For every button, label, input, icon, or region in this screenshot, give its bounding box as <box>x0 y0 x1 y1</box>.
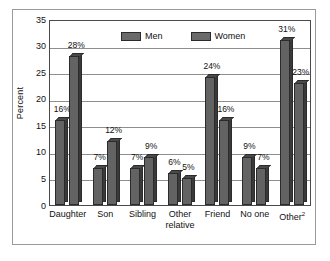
legend-label: Women <box>215 31 246 41</box>
bar-women-no-one: 7% <box>256 168 269 205</box>
bar-front-face <box>69 56 79 205</box>
bar-front-face <box>182 178 192 205</box>
y-axis-tick-label: 10 <box>16 148 46 157</box>
bar-front-face <box>280 40 290 205</box>
bar-women-son: 12% <box>107 141 120 205</box>
bar-men-son: 7% <box>93 168 106 205</box>
bar-women-other-relative: 5% <box>182 178 195 205</box>
bar-men-other: 31% <box>280 40 293 205</box>
y-axis-tick-label: 30 <box>16 42 46 51</box>
y-axis-tick-label: 5 <box>16 175 46 184</box>
bar-side-face <box>103 165 106 202</box>
gridline <box>50 127 310 128</box>
bar-side-face <box>178 170 181 202</box>
bar-women-sibling: 9% <box>144 157 157 205</box>
bar-side-face <box>192 175 195 202</box>
legend-swatch-icon <box>121 32 141 41</box>
bar-men-no-one: 9% <box>242 157 255 205</box>
bar-side-face <box>79 53 82 202</box>
bar-men-other-relative: 6% <box>168 173 181 205</box>
bar-front-face <box>219 120 229 205</box>
legend-item-men[interactable]: Men <box>121 31 163 41</box>
bar-value-label: 9% <box>236 141 262 151</box>
bar-value-label: 7% <box>250 152 276 162</box>
bar-top-face <box>94 165 108 168</box>
bar-men-sibling: 7% <box>130 168 143 205</box>
bar-front-face <box>256 168 266 205</box>
bar-value-label: 12% <box>101 125 127 135</box>
bar-women-daughter: 28% <box>69 56 82 205</box>
x-axis-tick-labels: DaughterSonSiblingOtherrelativeFriendNo … <box>49 209 311 243</box>
y-axis-tick-label: 20 <box>16 95 46 104</box>
bar-women-friend: 16% <box>219 120 232 205</box>
bar-value-label: 24% <box>199 61 225 71</box>
bar-front-face <box>242 157 252 205</box>
figure-frame: Percent 35302520151050 16%28%7%12%7%9%6%… <box>12 9 316 245</box>
y-axis-tick-label: 35 <box>16 16 46 25</box>
bar-value-label: 23% <box>288 67 314 77</box>
bar-women-other: 23% <box>294 83 307 205</box>
y-axis-tick-label: 15 <box>16 122 46 131</box>
bar-men-friend: 24% <box>205 77 218 205</box>
plot-area: 16%28%7%12%7%9%6%5%24%16%9%7%31%23% <box>49 20 311 206</box>
gridline <box>50 101 310 102</box>
bar-value-label: 28% <box>63 40 89 50</box>
bar-side-face <box>229 117 232 202</box>
legend-swatch-icon <box>191 32 211 41</box>
bar-side-face <box>154 154 157 202</box>
x-axis-tick-label-superscript: 2 <box>302 211 305 217</box>
legend-label: Men <box>145 31 163 41</box>
bar-side-face <box>215 74 218 202</box>
grouped-bar-chart: Percent 35302520151050 16%28%7%12%7%9%6%… <box>13 10 317 246</box>
bar-front-face <box>130 168 140 205</box>
bar-side-face <box>266 165 269 202</box>
bar-side-face <box>140 165 143 202</box>
bar-front-face <box>144 157 154 205</box>
x-axis-tick-label-line2: relative <box>153 220 206 231</box>
bar-front-face <box>93 168 103 205</box>
bar-front-face <box>107 141 117 205</box>
bar-value-label: 9% <box>138 141 164 151</box>
bar-value-label: 16% <box>213 104 239 114</box>
bar-front-face <box>168 173 178 205</box>
y-axis-tick-labels: 35302520151050 <box>13 20 46 206</box>
bar-value-label: 31% <box>274 24 300 34</box>
y-axis-tick-label: 25 <box>16 69 46 78</box>
x-axis-tick-label: Other2 <box>266 209 319 223</box>
bar-side-face <box>117 138 120 202</box>
chart-legend: MenWomen <box>121 29 245 43</box>
gridline <box>50 74 310 75</box>
bar-front-face <box>205 77 215 205</box>
bar-front-face <box>294 83 304 205</box>
bar-side-face <box>65 117 68 202</box>
legend-item-women[interactable]: Women <box>191 31 246 41</box>
bar-men-daughter: 16% <box>55 120 68 205</box>
bar-side-face <box>290 37 293 202</box>
bar-side-face <box>304 80 307 202</box>
bar-value-label: 5% <box>176 162 202 172</box>
bar-front-face <box>55 120 65 205</box>
x-axis-tick-label-line1: Other2 <box>266 209 319 223</box>
